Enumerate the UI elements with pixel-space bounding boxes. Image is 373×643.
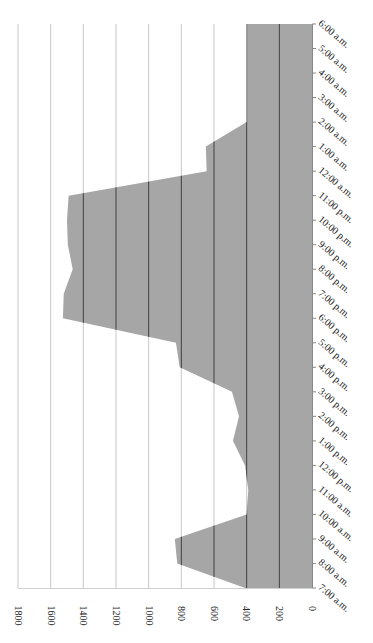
value-tick-label: 600 bbox=[209, 606, 220, 621]
value-tick-label: 1600 bbox=[45, 606, 56, 626]
value-tick-label: 1000 bbox=[143, 606, 154, 626]
area-series bbox=[63, 24, 312, 588]
value-tick-label: 200 bbox=[274, 606, 285, 621]
value-tick-label: 400 bbox=[241, 606, 252, 621]
value-tick-label: 800 bbox=[176, 606, 187, 621]
area-chart: 020040060080010001200140016001800 7:00 a… bbox=[0, 0, 373, 643]
value-tick-label: 0 bbox=[307, 606, 318, 611]
value-tick-label: 1800 bbox=[13, 606, 24, 626]
value-tick-label: 1400 bbox=[78, 606, 89, 626]
value-tick-label: 1200 bbox=[111, 606, 122, 626]
plot-area bbox=[0, 0, 373, 643]
